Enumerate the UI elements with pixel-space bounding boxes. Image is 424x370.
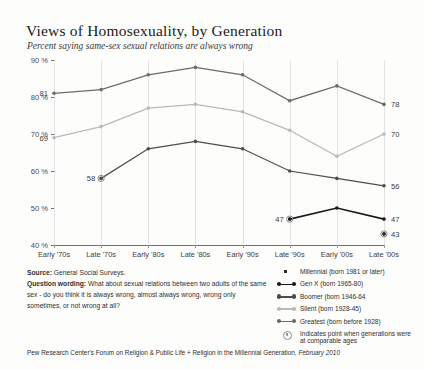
legend-item-label: Silent (born 1928-45) <box>297 305 361 312</box>
legend-item: Boomer (born 1946-64 <box>277 293 417 301</box>
legend-line-icon <box>277 305 297 313</box>
x-axis-tick <box>148 245 149 248</box>
legend-item-label: Millennial (born 1981 or later) <box>297 268 385 275</box>
series-start-value: 69 <box>40 133 48 142</box>
source-note: Source: General Social Surveys. <box>27 268 267 279</box>
x-axis-tick <box>243 245 244 248</box>
x-axis-tick-label: Late '80s <box>181 250 211 259</box>
series-line <box>54 104 384 156</box>
series-start-value: 58 <box>87 174 95 183</box>
data-point-marker <box>52 136 56 140</box>
legend-dot-icon <box>292 319 296 323</box>
x-axis-tick <box>195 245 196 248</box>
data-point-marker <box>335 84 339 88</box>
data-point-marker <box>194 140 198 144</box>
data-point-marker <box>146 106 150 110</box>
plot-area: 40 %50 %60 %70 %80 %90 % Early '70sLate … <box>54 60 384 245</box>
legend-item: Indicates point when generations were at… <box>277 330 417 344</box>
footer: Pew Research Center's Forum on Religion … <box>27 349 340 356</box>
legend-point-icon <box>277 268 297 276</box>
legend-dot-icon <box>277 319 281 323</box>
legend-item-label: Indicates point when generations were at… <box>297 330 417 344</box>
legend-item-label: Greatest (born before 1928) <box>297 318 381 325</box>
x-axis-tick-label: Late '70s <box>86 250 116 259</box>
data-point-marker <box>382 217 386 221</box>
data-point-marker <box>382 132 386 136</box>
x-axis-tick <box>384 245 385 248</box>
data-point-marker <box>288 99 292 103</box>
series-line <box>54 67 384 104</box>
data-point-marker <box>335 154 339 158</box>
series-end-value: 78 <box>391 100 399 109</box>
legend-ring-icon <box>277 330 297 338</box>
y-axis-tick-label: 90 % <box>31 56 48 65</box>
page-title: Views of Homosexuality, by Generation <box>26 22 282 40</box>
x-axis-tick <box>101 245 102 248</box>
legend-dot-icon <box>277 282 281 286</box>
y-axis-tick-label: 40 % <box>31 241 48 250</box>
series-end-value: 47 <box>391 215 399 224</box>
y-axis-tick-label: 60 % <box>31 167 48 176</box>
legend-item-label: Gen X (born 1965-80) <box>297 280 363 287</box>
footer-text: Pew Research Center's Forum on Religion … <box>27 349 297 356</box>
data-point-marker <box>241 73 245 77</box>
legend-line-icon <box>277 318 297 326</box>
data-point-marker <box>194 103 198 107</box>
series-start-value: 81 <box>40 89 48 98</box>
question-note: Question wording: What about sexual rela… <box>27 279 267 312</box>
source-label: Source: <box>27 269 52 276</box>
footer-date: February 2010 <box>298 349 340 356</box>
notes-block: Source: General Social Surveys. Question… <box>27 268 267 311</box>
legend-dot-icon <box>277 307 281 311</box>
legend-line-icon <box>277 280 297 288</box>
chart-page: Views of Homosexuality, by Generation Pe… <box>0 0 424 370</box>
data-point-marker <box>335 177 339 181</box>
legend-item: Silent (born 1928-45) <box>277 305 417 313</box>
legend: Millennial (born 1981 or later)Gen X (bo… <box>277 268 417 349</box>
legend-line-icon <box>277 293 297 301</box>
data-point-marker <box>382 103 386 107</box>
y-axis-tick-label: 50 % <box>31 204 48 213</box>
data-point-marker <box>241 110 245 114</box>
x-axis-tick-label: Late '90s <box>275 250 305 259</box>
x-axis-tick-label: Early '90s <box>226 250 258 259</box>
legend-dot-icon <box>292 307 296 311</box>
legend-dot-icon <box>292 294 296 298</box>
x-axis-line <box>54 245 385 246</box>
x-axis-tick <box>290 245 291 248</box>
legend-item: Millennial (born 1981 or later) <box>277 268 417 276</box>
legend-item-label: Boomer (born 1946-64 <box>297 293 365 300</box>
data-point-marker <box>99 125 103 129</box>
data-point-marker <box>99 177 102 180</box>
data-point-marker <box>382 232 385 235</box>
data-point-marker <box>194 66 198 70</box>
data-point-marker <box>99 88 103 92</box>
grid-line-vertical <box>384 60 385 245</box>
legend-square-swatch <box>284 270 287 273</box>
data-point-marker <box>288 129 292 133</box>
x-axis-tick-label: Early '70s <box>38 250 70 259</box>
x-axis-tick <box>337 245 338 248</box>
data-point-marker <box>335 206 339 210</box>
series-end-value: 70 <box>391 130 399 139</box>
x-axis-tick-label: Early '00s <box>321 250 353 259</box>
data-point-marker <box>382 184 386 188</box>
question-label: Question wording: <box>27 280 86 287</box>
x-axis-tick <box>54 245 55 248</box>
legend-item: Gen X (born 1965-80) <box>277 280 417 288</box>
data-point-marker <box>146 73 150 77</box>
data-point-marker <box>288 169 292 173</box>
x-axis-tick-label: Early '80s <box>132 250 164 259</box>
legend-item: Greatest (born before 1928) <box>277 318 417 326</box>
legend-dot-icon <box>277 294 281 298</box>
x-axis-tick-label: Late '00s <box>369 250 399 259</box>
page-subtitle: Percent saying same-sex sexual relations… <box>27 41 253 51</box>
data-point-marker <box>146 147 150 151</box>
comparable-age-ring-icon <box>283 331 292 340</box>
legend-dot-icon <box>292 282 296 286</box>
data-point-marker <box>288 217 291 220</box>
data-point-marker <box>241 147 245 151</box>
source-value: General Social Surveys. <box>54 269 126 276</box>
data-point-marker <box>52 92 56 96</box>
series-end-value: 56 <box>391 181 399 190</box>
